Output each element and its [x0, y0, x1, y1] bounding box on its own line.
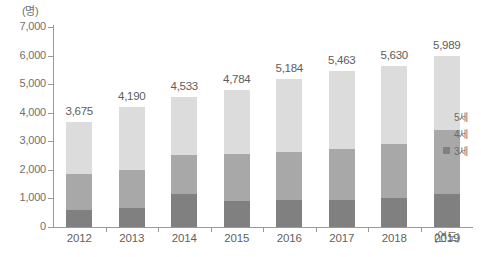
bar-segment[interactable] — [119, 208, 145, 227]
bar-total-label: 4,784 — [202, 73, 272, 85]
bar-group[interactable] — [381, 0, 407, 227]
bar-group[interactable] — [171, 0, 197, 227]
x-tick-label: 2016 — [259, 232, 319, 244]
bar-segment[interactable] — [119, 170, 145, 208]
x-tick-label: 2017 — [312, 232, 372, 244]
y-tick-label: 0 — [0, 220, 46, 232]
legend-swatch-icon — [443, 147, 450, 154]
bar-segment[interactable] — [329, 71, 355, 149]
bar-segment[interactable] — [171, 155, 197, 194]
bar-segment[interactable] — [381, 198, 407, 227]
legend-label: 3세 — [454, 143, 468, 158]
x-tick-label: 2013 — [102, 232, 162, 244]
bar-group[interactable] — [119, 0, 145, 227]
x-tick-label: 2019 — [417, 232, 477, 244]
stacked-bar-chart: (명) (연도) 01,0002,0003,0004,0005,0006,000… — [0, 0, 481, 257]
y-tick-mark — [48, 227, 54, 228]
legend-item[interactable]: 5세 — [443, 110, 468, 123]
legend-swatch-icon — [443, 113, 450, 120]
y-tick-mark — [48, 198, 54, 199]
y-tick-mark — [48, 84, 54, 85]
bar-segment[interactable] — [381, 66, 407, 144]
bar-segment[interactable] — [66, 174, 92, 210]
y-tick-label: 3,000 — [0, 134, 46, 146]
bar-group[interactable] — [329, 0, 355, 227]
bar-total-label: 5,630 — [359, 49, 429, 61]
bar-segment[interactable] — [224, 201, 250, 227]
y-tick-label: 5,000 — [0, 77, 46, 89]
bar-segment[interactable] — [276, 79, 302, 152]
legend-swatch-icon — [443, 130, 450, 137]
bar-segment[interactable] — [276, 200, 302, 227]
y-tick-label: 2,000 — [0, 163, 46, 175]
legend-label: 5세 — [454, 109, 468, 124]
bar-total-label: 5,989 — [412, 39, 481, 51]
legend-item[interactable]: 3세 — [443, 144, 468, 157]
bar-segment[interactable] — [381, 144, 407, 198]
legend-item[interactable]: 4세 — [443, 127, 468, 140]
legend-label: 4세 — [454, 126, 468, 141]
x-tick-label: 2015 — [207, 232, 267, 244]
x-tick-label: 2018 — [364, 232, 424, 244]
x-tick-label: 2012 — [49, 232, 109, 244]
bar-segment[interactable] — [66, 122, 92, 174]
bar-segment[interactable] — [224, 90, 250, 154]
y-tick-label: 4,000 — [0, 106, 46, 118]
bar-segment[interactable] — [224, 154, 250, 201]
y-tick-label: 7,000 — [0, 20, 46, 32]
y-tick-label: 1,000 — [0, 191, 46, 203]
bar-segment[interactable] — [119, 107, 145, 170]
y-tick-label: 6,000 — [0, 49, 46, 61]
bar-segment[interactable] — [66, 210, 92, 227]
bar-group[interactable] — [224, 0, 250, 227]
bar-segment[interactable] — [434, 194, 460, 227]
bar-group[interactable] — [276, 0, 302, 227]
y-tick-mark — [48, 141, 54, 142]
bar-segment[interactable] — [171, 97, 197, 155]
bar-segment[interactable] — [329, 200, 355, 227]
y-tick-mark — [48, 27, 54, 28]
x-tick-label: 2014 — [154, 232, 214, 244]
bar-segment[interactable] — [171, 194, 197, 227]
bar-segment[interactable] — [329, 149, 355, 200]
chart-legend: 5세4세3세 — [443, 110, 468, 161]
y-axis-unit-label: (명) — [22, 2, 38, 18]
y-tick-mark — [48, 56, 54, 57]
bar-segment[interactable] — [276, 152, 302, 200]
y-tick-mark — [48, 170, 54, 171]
bar-total-label: 3,675 — [44, 105, 114, 117]
